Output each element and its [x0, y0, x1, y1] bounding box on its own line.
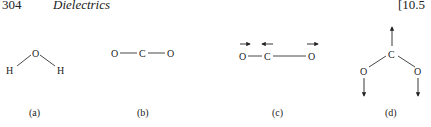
caption-a: (a) [29, 107, 40, 118]
molecule-diagrams: O H H O C O O C O C O O [0, 0, 431, 127]
svg-text:C: C [139, 48, 146, 59]
svg-text:O: O [360, 66, 367, 77]
svg-text:O: O [32, 48, 39, 59]
svg-text:C: C [264, 51, 271, 62]
svg-text:C: C [388, 49, 395, 60]
caption-d: (d) [385, 107, 397, 118]
caption-c: (c) [272, 107, 283, 118]
svg-text:H: H [57, 65, 64, 76]
svg-text:O: O [414, 66, 421, 77]
figure-b-co2: O C O [111, 48, 174, 59]
svg-text:O: O [111, 48, 118, 59]
caption-b: (b) [137, 107, 149, 118]
figure-a-water: O H H [6, 48, 64, 76]
svg-text:O: O [239, 51, 246, 62]
svg-text:O: O [308, 51, 315, 62]
figure-d-co2-bend: C O O [360, 27, 421, 96]
figure-c-co2-stretch: O C O [239, 44, 318, 62]
svg-text:O: O [167, 48, 174, 59]
svg-text:H: H [6, 65, 13, 76]
